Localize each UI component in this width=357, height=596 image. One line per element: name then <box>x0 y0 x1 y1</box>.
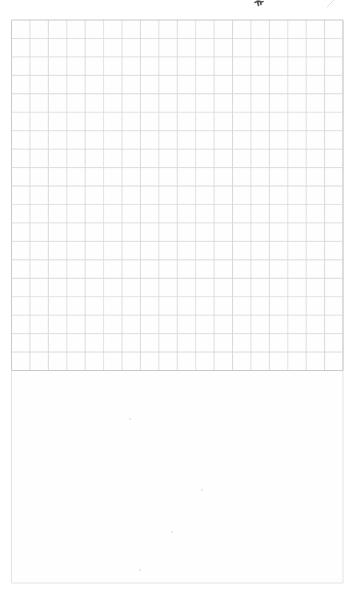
dust-speck <box>139 569 141 571</box>
dust-speck <box>129 418 131 420</box>
faint-mark <box>327 0 334 7</box>
page-render <box>0 0 357 596</box>
scanned-graph-paper-page <box>0 0 357 596</box>
ink-mark <box>255 1 263 5</box>
dust-speck <box>171 531 173 533</box>
dust-speck <box>201 489 203 491</box>
